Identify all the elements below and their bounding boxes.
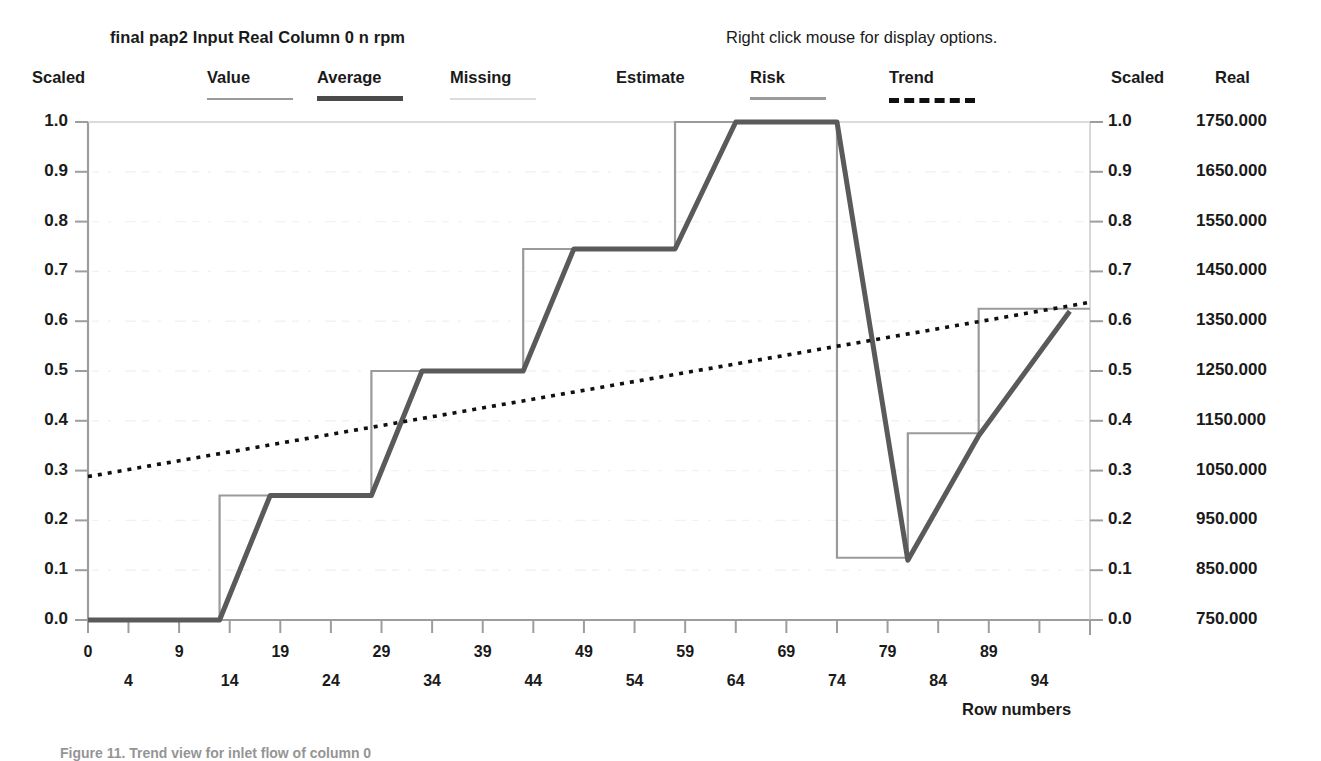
axis-lines (88, 122, 1090, 620)
y-axis-right-tick: 0.6 (1108, 310, 1142, 330)
y-axis-real-tick: 950.000 (1196, 509, 1304, 529)
y-axis-right-tick: 0.5 (1108, 360, 1142, 380)
x-axis-tick-lower: 14 (210, 672, 250, 690)
y-axis-right-tick: 0.9 (1108, 161, 1142, 181)
data-series (88, 122, 1090, 620)
x-axis-tick-lower: 84 (918, 672, 958, 690)
x-axis-tick-lower: 34 (412, 672, 452, 690)
y-axis-real-tick: 1450.000 (1196, 260, 1304, 280)
y-axis-real-tick: 1250.000 (1196, 360, 1304, 380)
y-axis-right-tick: 1.0 (1108, 111, 1142, 131)
x-axis-tick-lower: 44 (513, 672, 553, 690)
y-axis-real-tick: 1350.000 (1196, 310, 1304, 330)
y-axis-right-tick: 0.3 (1108, 460, 1142, 480)
y-axis-left-tick: 0.5 (10, 360, 68, 380)
x-axis-tick-upper: 89 (969, 643, 1009, 661)
x-axis-tick-upper: 79 (868, 643, 908, 661)
x-axis-tick-lower: 24 (311, 672, 351, 690)
y-axis-left-tick: 0.8 (10, 211, 68, 231)
x-axis-tick-lower: 64 (716, 672, 756, 690)
x-axis-tick-lower: 54 (615, 672, 655, 690)
x-axis-title: Row numbers (962, 700, 1071, 719)
y-axis-real-tick: 1750.000 (1196, 111, 1304, 131)
x-axis-tick-lower: 74 (817, 672, 857, 690)
y-axis-left-tick: 0.6 (10, 310, 68, 330)
y-axis-real-tick: 1050.000 (1196, 460, 1304, 480)
y-axis-right-tick: 0.8 (1108, 211, 1142, 231)
x-axis-tick-upper: 49 (564, 643, 604, 661)
y-axis-real-tick: 1550.000 (1196, 211, 1304, 231)
y-axis-left-tick: 0.2 (10, 509, 68, 529)
x-axis-tick-upper: 69 (766, 643, 806, 661)
y-axis-left-tick: 0.0 (10, 609, 68, 629)
x-axis-tick-upper: 59 (665, 643, 705, 661)
y-axis-left-tick: 0.1 (10, 559, 68, 579)
y-axis-real-tick: 750.000 (1196, 609, 1304, 629)
x-axis-tick-lower: 94 (1019, 672, 1059, 690)
y-axis-right-tick: 0.0 (1108, 609, 1142, 629)
x-axis-tick-upper: 39 (463, 643, 503, 661)
x-axis-tick-lower: 4 (108, 672, 148, 690)
y-axis-left-tick: 0.4 (10, 410, 68, 430)
y-axis-left-tick: 0.9 (10, 161, 68, 181)
y-axis-real-tick: 1650.000 (1196, 161, 1304, 181)
axis-ticks (75, 122, 1103, 635)
x-axis-tick-upper: 19 (260, 643, 300, 661)
y-axis-right-tick: 0.7 (1108, 260, 1142, 280)
y-axis-left-tick: 1.0 (10, 111, 68, 131)
y-axis-right-tick: 0.1 (1108, 559, 1142, 579)
y-axis-right-tick: 0.2 (1108, 509, 1142, 529)
y-axis-right-tick: 0.4 (1108, 410, 1142, 430)
x-axis-tick-upper: 9 (159, 643, 199, 661)
x-axis-tick-upper: 29 (362, 643, 402, 661)
y-axis-real-tick: 1150.000 (1196, 410, 1304, 430)
figure-caption: Figure 11. Trend view for inlet flow of … (60, 745, 371, 761)
y-axis-left-tick: 0.7 (10, 260, 68, 280)
y-axis-real-tick: 850.000 (1196, 559, 1304, 579)
x-axis-tick-upper: 0 (68, 643, 108, 661)
y-axis-left-tick: 0.3 (10, 460, 68, 480)
